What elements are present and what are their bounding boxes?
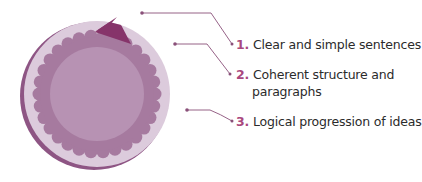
leader-dot-3-end [231, 120, 234, 123]
item-3-text: Logical progression of ideas [253, 114, 421, 129]
item-2-text-line2: paragraphs [236, 83, 394, 100]
item-3-number: 3. [236, 114, 249, 129]
leader-dot-3-start [185, 108, 189, 112]
inner-disc [50, 47, 144, 141]
item-2-number: 2. [236, 67, 249, 82]
leader-line-3 [187, 110, 232, 121]
item-2-text-line1: Coherent structure and [253, 67, 394, 82]
leader-dot-1-start [140, 11, 144, 15]
leader-line-1 [142, 13, 232, 44]
item-1-text: Clear and simple sentences [253, 37, 421, 52]
leader-dot-1-end [231, 43, 234, 46]
leader-dot-2-start [173, 42, 177, 46]
leader-dot-2-end [229, 73, 232, 76]
item-1-number: 1. [236, 37, 249, 52]
item-3-label: 3.Logical progression of ideas [236, 113, 422, 130]
item-2-label: 2.Coherent structure and paragraphs [236, 66, 394, 100]
item-1-label: 1.Clear and simple sentences [236, 36, 421, 53]
leader-line-2 [175, 44, 230, 74]
